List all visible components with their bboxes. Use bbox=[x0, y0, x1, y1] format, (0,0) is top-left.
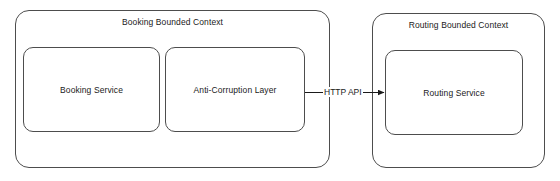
diagram-canvas: Booking Bounded Context Booking Service … bbox=[0, 0, 560, 181]
routing-bounded-context-title: Routing Bounded Context bbox=[373, 20, 544, 31]
anti-corruption-layer-box[interactable]: Anti-Corruption Layer bbox=[165, 47, 305, 132]
booking-bounded-context-title: Booking Bounded Context bbox=[16, 17, 329, 28]
routing-service-label: Routing Service bbox=[386, 87, 522, 98]
routing-service-box[interactable]: Routing Service bbox=[385, 50, 523, 135]
booking-service-label: Booking Service bbox=[24, 84, 159, 95]
http-api-edge-label: HTTP API bbox=[323, 87, 363, 97]
anti-corruption-layer-label: Anti-Corruption Layer bbox=[166, 84, 304, 95]
booking-service-box[interactable]: Booking Service bbox=[23, 47, 160, 132]
